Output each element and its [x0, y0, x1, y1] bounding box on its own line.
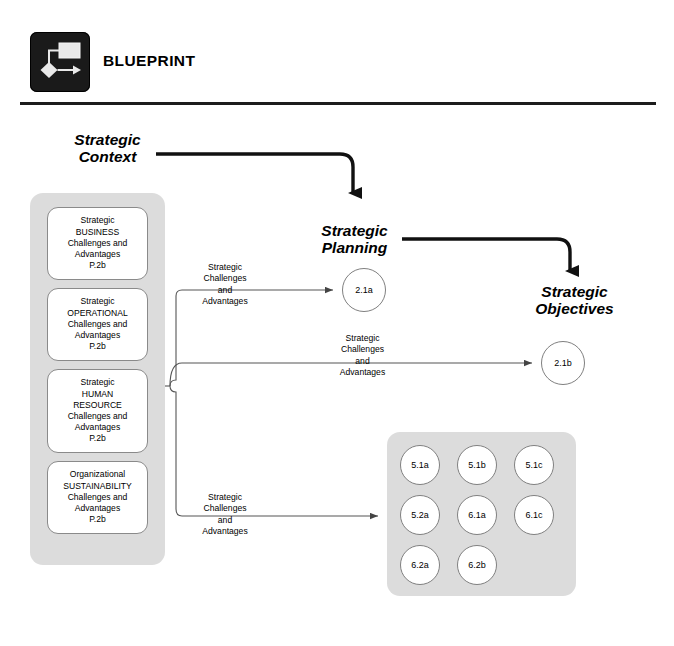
driver-box-sustainability[interactable]: Organizational SUSTAINABILITY Challenges… [47, 461, 148, 534]
arrow-strategic-objectives [402, 239, 570, 271]
outcome-node-5-1b[interactable]: 5.1b [457, 445, 497, 485]
driver-box-operational[interactable]: Strategic OPERATIONAL Challenges and Adv… [47, 288, 148, 361]
outcome-node-6-2a[interactable]: 6.2a [400, 545, 440, 585]
header-divider [20, 102, 656, 105]
outcome-node-5-1a[interactable]: 5.1a [400, 445, 440, 485]
section-heading-strategic-planning: Strategic Planning [297, 222, 412, 256]
arrow-strategic-context [156, 154, 353, 193]
app-logo [30, 32, 90, 92]
outcome-node-6-1c[interactable]: 6.1c [514, 495, 554, 535]
page-title: BLUEPRINT [103, 52, 195, 70]
process-node-2-1a[interactable]: 2.1a [342, 268, 386, 312]
connector-label-to-outcomes: Strategic Challenges and Advantages [170, 492, 280, 538]
outcome-node-5-1c[interactable]: 5.1c [514, 445, 554, 485]
section-heading-strategic-objectives: Strategic Objectives [512, 283, 637, 317]
blueprint-flowchart-icon [30, 32, 90, 92]
outcome-node-6-1a[interactable]: 6.1a [457, 495, 497, 535]
process-node-2-1b[interactable]: 2.1b [541, 341, 585, 385]
outcome-node-6-2b[interactable]: 6.2b [457, 545, 497, 585]
connector-label-to-planning: Strategic Challenges and Advantages [170, 262, 280, 308]
outcome-node-5-2a[interactable]: 5.2a [400, 495, 440, 535]
connector-label-to-objectives: Strategic Challenges and Advantages [310, 333, 415, 379]
section-heading-strategic-context: Strategic Context [50, 131, 165, 165]
driver-box-human-resource[interactable]: Strategic HUMAN RESOURCE Challenges and … [47, 369, 148, 453]
driver-box-business[interactable]: Strategic BUSINESS Challenges and Advant… [47, 207, 148, 280]
